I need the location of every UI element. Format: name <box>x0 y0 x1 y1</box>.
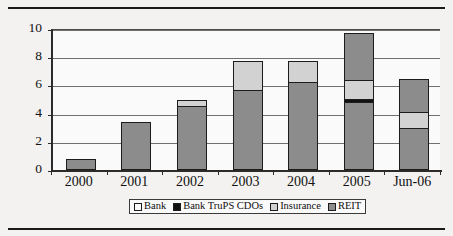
x-axis-tick <box>384 170 385 175</box>
legend-item: Bank TruPS CDOs <box>173 201 263 212</box>
bar-segment <box>233 90 263 170</box>
bar-segment <box>344 80 374 99</box>
x-axis-tick-labels: 200020012002200320042005Jun-06 <box>51 174 440 196</box>
bar-segment <box>399 112 429 128</box>
legend-swatch <box>328 203 336 211</box>
x-axis-tick <box>329 170 330 175</box>
legend-swatch <box>270 203 278 211</box>
bottom-horizontal-rule <box>8 228 445 230</box>
x-axis-tick-label: 2002 <box>176 174 204 190</box>
legend-swatch <box>134 203 142 211</box>
y-axis-tick-label: 6 <box>0 76 42 92</box>
legend-label: REIT <box>338 201 361 212</box>
y-axis-tick-label: 8 <box>0 48 42 64</box>
x-axis-line <box>51 170 442 172</box>
bar-segment <box>344 33 374 80</box>
bar-segment <box>344 102 374 170</box>
chart-legend: BankBank TruPS CDOsInsuranceREIT <box>129 199 366 214</box>
bar-stack <box>344 29 374 170</box>
x-axis-tick <box>51 170 52 175</box>
top-horizontal-rule <box>8 7 445 9</box>
bar-segment <box>288 61 318 81</box>
bars-group <box>53 30 440 170</box>
y-axis-tick-label: 0 <box>0 161 42 177</box>
bar-stack <box>66 29 96 170</box>
x-axis-tick-label: 2003 <box>232 174 260 190</box>
bar-stack <box>177 29 207 170</box>
y-axis-tick-label: 2 <box>0 133 42 149</box>
x-axis-tick-label: 2001 <box>120 174 148 190</box>
y-axis-tick-label: 10 <box>0 20 42 36</box>
y-axis-tick-label: 4 <box>0 105 42 121</box>
legend-swatch <box>173 203 181 211</box>
plot-area <box>51 29 440 170</box>
legend-label: Bank <box>144 201 166 212</box>
bar-segment <box>233 61 263 90</box>
bar-stack <box>399 29 429 170</box>
x-axis-tick <box>218 170 219 175</box>
legend-item: Bank <box>134 201 166 212</box>
bar-segment <box>121 122 151 170</box>
legend-label: Bank TruPS CDOs <box>183 201 263 212</box>
x-axis-tick-label: 2000 <box>65 174 93 190</box>
legend-item: Insurance <box>270 201 321 212</box>
x-axis-tick <box>162 170 163 175</box>
bar-stack <box>288 29 318 170</box>
bar-segment <box>66 159 96 170</box>
x-axis-tick <box>273 170 274 175</box>
x-axis-tick-label: 2005 <box>343 174 371 190</box>
x-axis-tick-label: Jun-06 <box>393 174 431 190</box>
bar-segment <box>177 106 207 170</box>
bar-segment <box>399 128 429 170</box>
bar-segment <box>399 79 429 112</box>
x-axis-tick <box>440 170 441 175</box>
legend-item: REIT <box>328 201 361 212</box>
bar-stack <box>233 29 263 170</box>
x-axis-tick-label: 2004 <box>287 174 315 190</box>
legend-label: Insurance <box>280 201 321 212</box>
bar-segment <box>288 82 318 170</box>
figure-canvas: $ billions 0246810 200020012002200320042… <box>0 0 453 236</box>
x-axis-tick <box>107 170 108 175</box>
bar-stack <box>121 29 151 170</box>
